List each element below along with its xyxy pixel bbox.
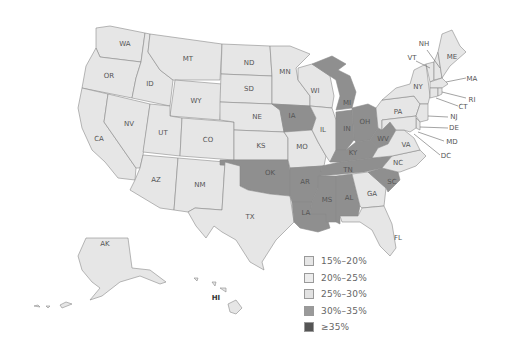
label-mi: MI — [343, 99, 351, 107]
label-ne: NE — [252, 113, 262, 121]
label-wa: WA — [119, 40, 131, 48]
legend-swatch — [304, 289, 314, 299]
legend-swatch — [304, 306, 314, 316]
legend-item-30-35: 30%–35% — [304, 303, 367, 320]
label-ct: CT — [458, 103, 468, 111]
label-tn: TN — [342, 166, 353, 174]
label-ut: UT — [158, 129, 168, 137]
label-ma: MA — [467, 75, 478, 83]
label-sd: SD — [244, 85, 254, 93]
label-or: OR — [104, 72, 115, 80]
label-al: AL — [345, 194, 354, 202]
legend-label: 25%–30% — [321, 289, 367, 299]
state-ct — [430, 88, 438, 98]
label-co: CO — [203, 136, 214, 144]
label-mt: MT — [183, 55, 194, 63]
label-ms: MS — [322, 196, 333, 204]
label-tx: TX — [244, 213, 254, 221]
label-hi: HI — [212, 294, 220, 302]
legend-label: 15%–20% — [321, 256, 367, 266]
label-la: LA — [302, 209, 311, 217]
label-ia: IA — [289, 112, 296, 120]
label-pa: PA — [394, 108, 403, 116]
legend-swatch — [304, 322, 314, 332]
label-ks: KS — [256, 142, 266, 150]
label-in: IN — [343, 125, 350, 133]
label-nm: NM — [194, 181, 205, 189]
label-oh: OH — [360, 118, 371, 126]
label-me: ME — [447, 53, 457, 61]
label-vt: VT — [407, 54, 417, 62]
label-ri: RI — [469, 96, 476, 104]
label-nd: ND — [244, 59, 255, 67]
label-wi: WI — [311, 87, 320, 95]
label-ny: NY — [413, 83, 423, 91]
label-az: AZ — [151, 176, 161, 184]
label-ar: AR — [300, 178, 310, 186]
us-choropleth-map: WA OR CA ID NV MT WY UT CO AZ NM ND SD N… — [0, 0, 508, 351]
label-il: IL — [320, 126, 326, 134]
label-ky: KY — [349, 149, 358, 157]
label-va: VA — [401, 141, 410, 149]
legend-label: 20%–25% — [321, 273, 367, 283]
label-nj: NJ — [450, 113, 457, 121]
ak-aleutians — [34, 302, 72, 308]
legend-item-15-20: 15%–20% — [304, 253, 367, 270]
label-sc: SC — [387, 178, 396, 186]
legend-item-35-plus: ≥35% — [304, 319, 367, 336]
states-layer — [34, 26, 466, 314]
label-de: DE — [449, 124, 459, 132]
label-nc: NC — [393, 159, 403, 167]
label-ca: CA — [94, 135, 104, 143]
legend-swatch — [304, 256, 314, 266]
label-fl: FL — [394, 234, 402, 242]
label-wv: WV — [377, 135, 389, 143]
label-mn: MN — [279, 68, 290, 76]
label-ak: AK — [100, 240, 110, 248]
state-ri — [438, 88, 442, 96]
label-ga: GA — [367, 190, 377, 198]
legend-item-25-30: 25%–30% — [304, 286, 367, 303]
legend-item-20-25: 20%–25% — [304, 270, 367, 287]
legend-label: ≥35% — [321, 322, 349, 332]
label-wy: WY — [190, 97, 202, 105]
legend-label: 30%–35% — [321, 306, 367, 316]
legend-swatch — [304, 273, 314, 283]
label-ok: OK — [265, 169, 276, 177]
label-nh: NH — [419, 40, 430, 48]
label-md: MD — [446, 138, 457, 146]
label-id: ID — [146, 80, 153, 88]
legend: 15%–20% 20%–25% 25%–30% 30%–35% ≥35% — [304, 253, 367, 336]
label-mo: MO — [296, 143, 308, 151]
label-nv: NV — [124, 120, 134, 128]
state-ak — [78, 238, 166, 300]
label-dc: DC — [441, 152, 451, 160]
